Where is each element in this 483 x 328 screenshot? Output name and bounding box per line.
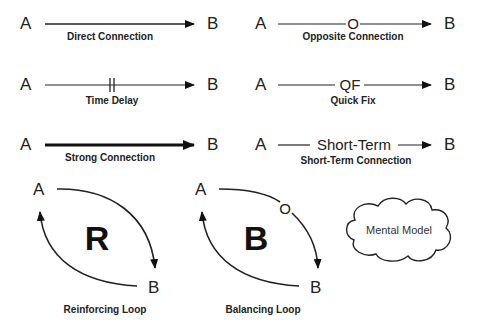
loop-symbol: R [85,219,110,257]
node-a: A [20,135,32,154]
connection-label: Quick Fix [330,95,375,106]
short-term-connection: A Short-Term B Short-Term Connection [255,135,455,166]
opposite-marker: O [347,15,359,32]
connection-label: Short-Term Connection [301,155,412,166]
loop-label: Balancing Loop [226,304,301,315]
node-b: B [207,135,218,154]
loop-label: Reinforcing Loop [64,304,147,315]
node-b: B [207,14,218,33]
connection-label: Strong Connection [65,152,155,163]
node-a: A [255,75,267,94]
node-a: A [20,75,32,94]
node-b: B [444,135,455,154]
short-term-marker: Short-Term [317,136,391,153]
mental-model-label: Mental Model [366,224,432,236]
quick-fix-connection: A QF B Quick Fix [255,75,455,106]
opposite-marker: O [279,200,291,217]
time-delay-connection: A B Time Delay [20,75,218,106]
node-a: A [255,14,267,33]
reinforcing-loop: A R B Reinforcing Loop [33,180,159,315]
node-a: A [195,180,207,199]
notation-diagram: A B Direct Connection A O B Opposite Con… [0,0,483,328]
connection-label: Opposite Connection [302,31,403,42]
connection-label: Time Delay [86,95,139,106]
node-b: B [444,14,455,33]
arrow-icon [292,213,318,268]
direct-connection: A B Direct Connection [20,14,218,42]
node-a: A [255,135,267,154]
node-b: B [310,278,321,297]
node-b: B [444,75,455,94]
loop-symbol: B [244,219,269,257]
mental-model-cloud: Mental Model [347,198,451,261]
connection-label: Direct Connection [67,31,153,42]
strong-connection: A B Strong Connection [20,135,218,163]
node-b: B [207,75,218,94]
node-a: A [20,14,32,33]
opposite-connection: A O B Opposite Connection [255,14,455,42]
balancing-loop: A O B B Balancing Loop [195,180,321,315]
node-a: A [33,180,45,199]
quick-fix-marker: QF [340,76,361,93]
node-b: B [148,278,159,297]
